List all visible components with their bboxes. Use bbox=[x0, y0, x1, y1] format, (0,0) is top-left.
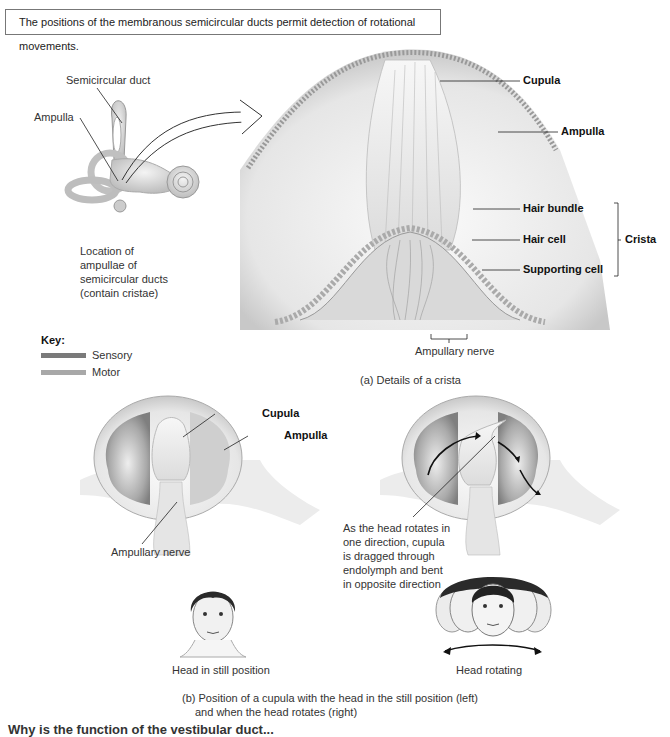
footer-heading-cut: Why is the function of the vestibular du… bbox=[8, 722, 274, 737]
label-ampulla-ear: Ampulla bbox=[34, 111, 74, 123]
panel-a-caption: (a) Details of a crista bbox=[360, 374, 461, 386]
key-heading: Key: bbox=[41, 334, 65, 346]
inner-ear-drawing bbox=[68, 101, 199, 212]
inner-ear-caption: Location of ampullae of semicircular duc… bbox=[80, 244, 180, 300]
head-still-drawing bbox=[180, 592, 246, 657]
crista-drawing bbox=[240, 50, 610, 330]
label-ampulla-a: Ampulla bbox=[561, 125, 604, 137]
rotation-annotation: As the head rotates in one direction, cu… bbox=[343, 521, 453, 591]
label-supporting-cell: Supporting cell bbox=[523, 263, 603, 275]
ampulla-still-drawing bbox=[80, 396, 320, 555]
head-still-caption: Head in still position bbox=[172, 664, 270, 676]
head-rotating-drawing bbox=[436, 577, 551, 655]
label-cupula-a: Cupula bbox=[523, 74, 560, 86]
head-rotating-caption: Head rotating bbox=[456, 664, 522, 676]
label-ampullary-nerve-a: Ampullary nerve bbox=[415, 345, 494, 357]
label-hair-bundle: Hair bundle bbox=[523, 202, 584, 214]
label-cupula-b: Cupula bbox=[262, 407, 299, 419]
key-label-sensory: Sensory bbox=[92, 349, 132, 361]
key-swatch-motor bbox=[41, 370, 86, 375]
panel-b-caption-line1: (b) Position of a cupula with the head i… bbox=[182, 692, 478, 704]
label-semicircular-duct: Semicircular duct bbox=[66, 74, 150, 86]
label-crista: Crista bbox=[625, 233, 656, 245]
key-label-motor: Motor bbox=[92, 366, 120, 378]
label-ampulla-b: Ampulla bbox=[284, 429, 327, 441]
key-swatch-sensory bbox=[41, 353, 86, 358]
label-hair-cell: Hair cell bbox=[523, 233, 566, 245]
label-ampullary-nerve-b: Ampullary nerve bbox=[111, 546, 190, 558]
panel-b-caption-line2: and when the head rotates (right) bbox=[195, 706, 357, 718]
